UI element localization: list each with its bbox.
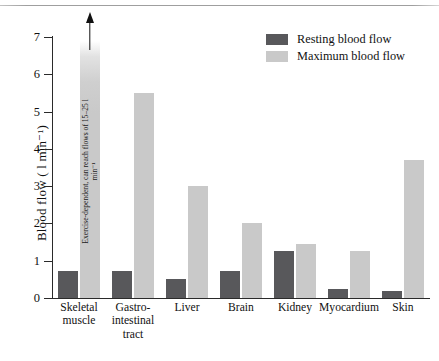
y-tick-label-4: 4 <box>22 143 40 156</box>
legend-label-maximum: Maximum blood flow <box>297 50 405 62</box>
bar-maximum-4 <box>242 223 262 298</box>
y-tick-0 <box>44 298 52 299</box>
bar-maximum-6 <box>350 251 370 298</box>
x-label-4: Brain <box>211 301 271 314</box>
y-tick-label-0: 0 <box>22 292 40 305</box>
y-tick-label-7: 7 <box>22 31 40 44</box>
y-tick-label-2: 2 <box>22 217 40 230</box>
y-tick-label-3: 3 <box>22 180 40 193</box>
y-tick-2 <box>44 223 52 224</box>
resting-swatch-icon <box>266 34 288 45</box>
y-tick-7 <box>44 37 52 38</box>
bar-group-3 <box>166 37 208 298</box>
bar-group-6 <box>328 37 370 298</box>
bar-maximum-7 <box>404 160 424 298</box>
x-axis-labels: SkeletalmuscleGastro-intestinaltractLive… <box>52 301 430 359</box>
legend-item-maximum: Maximum blood flow <box>266 50 405 62</box>
chart-legend: Resting blood flow Maximum blood flow <box>266 33 405 67</box>
top-divider-rule <box>0 5 439 6</box>
y-tick-3 <box>44 186 52 187</box>
maximum-swatch-icon <box>266 51 288 62</box>
x-axis-line <box>52 298 430 299</box>
bar-group-7 <box>382 37 424 298</box>
legend-item-resting: Resting blood flow <box>266 33 405 45</box>
y-tick-6 <box>44 74 52 75</box>
x-label-1: Skeletalmuscle <box>49 301 109 328</box>
y-tick-4 <box>44 149 52 150</box>
plot-area <box>52 37 430 298</box>
x-label-line: Skin <box>373 301 433 314</box>
x-label-line: muscle <box>49 314 109 327</box>
bar-resting-1 <box>58 271 78 298</box>
x-label-line: Liver <box>157 301 217 314</box>
x-label-line: Brain <box>211 301 271 314</box>
x-label-line: Myocardium <box>319 301 379 314</box>
y-tick-5 <box>44 112 52 113</box>
bar-resting-5 <box>274 251 294 298</box>
x-label-line: Kidney <box>265 301 325 314</box>
y-axis-title-container: Blood flow ( l min⁻¹) <box>0 100 20 270</box>
bar-annotation-exercise-dependent: Exercise-dependent, can reach flows of 1… <box>81 96 100 246</box>
bar-group-5 <box>274 37 316 298</box>
x-label-line: Gastro- <box>103 301 163 314</box>
bar-maximum-5 <box>296 244 316 298</box>
x-label-2: Gastro-intestinaltract <box>103 301 163 341</box>
x-label-5: Kidney <box>265 301 325 314</box>
x-label-7: Skin <box>373 301 433 314</box>
y-tick-label-5: 5 <box>22 106 40 119</box>
y-tick-label-1: 1 <box>22 255 40 268</box>
x-label-line: intestinal <box>103 314 163 327</box>
bar-maximum-3 <box>188 186 208 298</box>
y-tick-label-6: 6 <box>22 68 40 81</box>
x-label-3: Liver <box>157 301 217 314</box>
bar-group-4 <box>220 37 262 298</box>
bar-resting-3 <box>166 279 186 298</box>
bar-resting-2 <box>112 271 132 298</box>
bar-group-2 <box>112 37 154 298</box>
arrow-shaft <box>89 20 90 50</box>
bar-resting-4 <box>220 271 240 298</box>
y-tick-1 <box>44 261 52 262</box>
legend-label-resting: Resting blood flow <box>297 33 391 45</box>
bar-resting-7 <box>382 291 402 298</box>
x-label-line: Skeletal <box>49 301 109 314</box>
x-label-6: Myocardium <box>319 301 379 314</box>
x-label-line: tract <box>103 328 163 341</box>
bar-maximum-2 <box>134 93 154 298</box>
bar-resting-6 <box>328 289 348 298</box>
